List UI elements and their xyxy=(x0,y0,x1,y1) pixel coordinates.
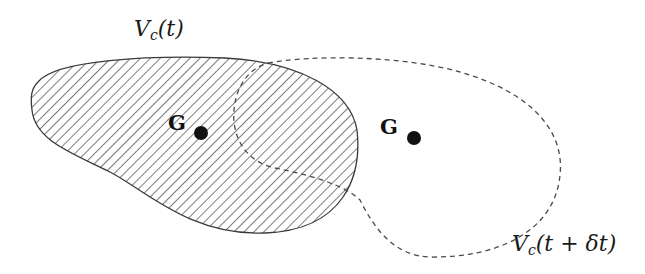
volume-t-dt-label-main: V xyxy=(512,231,528,256)
volume-t-label: Vc(t) xyxy=(134,16,184,43)
volume-t-label-arg: (t) xyxy=(158,16,184,41)
centroid-t-dt-point xyxy=(407,131,421,145)
control-volume-t xyxy=(31,57,358,233)
volume-t-dt-label-sub: c xyxy=(528,242,536,258)
volume-t-label-sub: c xyxy=(150,27,158,43)
centroid-t-point xyxy=(194,126,208,140)
centroid-t-dt-label: G xyxy=(380,114,398,139)
volume-t-dt-label: Vc(t + δt) xyxy=(512,231,616,258)
centroid-t-label: G xyxy=(168,110,186,135)
volume-t-label-main: V xyxy=(134,16,150,41)
volume-t-dt-label-arg: (t + δt) xyxy=(536,231,617,256)
